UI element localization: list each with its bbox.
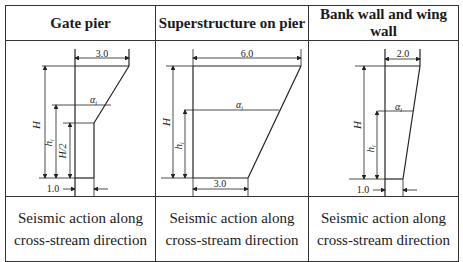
superstructure-outline: [193, 66, 301, 178]
bank-wall-diagram-cell: 2.0 αi H hi 1.0: [309, 41, 459, 197]
bank-wall-top-width: 2.0: [397, 48, 410, 59]
gate-pier-diagram: 3.0 αi H hi H/2 1.0: [6, 41, 156, 196]
caption-bank-wall: Seismic action along cross-stream direct…: [309, 197, 459, 262]
bank-wall-outline: [385, 49, 420, 196]
header-gate-pier: Gate pier: [6, 6, 156, 41]
superstructure-top-width: 6.0: [241, 48, 254, 59]
gate-pier-half-height-label: H/2: [57, 144, 68, 160]
header-bank-wall: Bank wall and wing wall: [309, 6, 459, 41]
superstructure-diagram-cell: 6.0 αi H hi 3.0: [156, 41, 309, 197]
header-row: Gate pier Superstructure on pier Bank wa…: [6, 6, 459, 41]
superstructure-hi-label: hi: [172, 142, 185, 150]
caption-row: Seismic action along cross-stream direct…: [6, 197, 459, 262]
superstructure-diagram: 6.0 αi H hi 3.0: [156, 41, 309, 196]
bank-wall-bottom-width: 1.0: [357, 184, 370, 195]
gate-pier-bottom-width: 1.0: [47, 183, 60, 194]
bank-wall-alpha: αi: [395, 101, 402, 113]
gate-pier-top-width: 3.0: [96, 48, 109, 59]
superstructure-bottom-width: 3.0: [214, 178, 227, 189]
superstructure-height-label: H: [160, 117, 172, 127]
diagram-row: 3.0 αi H hi H/2 1.0: [6, 41, 459, 197]
bank-wall-diagram: 2.0 αi H hi 1.0: [309, 41, 459, 196]
bank-wall-hi-label: hi: [364, 145, 377, 153]
gate-pier-hi-label: hi: [42, 139, 55, 147]
header-superstructure: Superstructure on pier: [156, 6, 309, 41]
seismic-distribution-table: Gate pier Superstructure on pier Bank wa…: [5, 5, 459, 262]
bank-wall-height-label: H: [351, 120, 363, 130]
superstructure-alpha: αi: [236, 99, 243, 111]
gate-pier-outline: [75, 49, 129, 196]
gate-pier-diagram-cell: 3.0 αi H hi H/2 1.0: [6, 41, 156, 197]
gate-pier-height-label: H: [30, 120, 42, 130]
caption-superstructure: Seismic action along cross-stream direct…: [156, 197, 309, 262]
caption-gate-pier: Seismic action along cross-stream direct…: [6, 197, 156, 262]
gate-pier-alpha: αi: [90, 94, 97, 106]
